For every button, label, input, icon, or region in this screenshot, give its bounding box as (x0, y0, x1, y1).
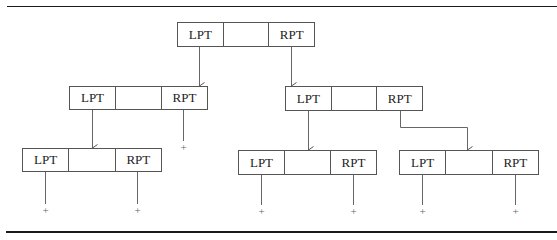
null-marker-icon: + (512, 206, 518, 217)
data-cell (115, 87, 161, 109)
left-pointer-cell: LPT (23, 149, 68, 171)
left-pointer-cell: LPT (400, 151, 445, 174)
edge-right-right (401, 110, 468, 150)
right-pointer-cell: RPT (161, 87, 207, 109)
right-pointer-cell: RPT (115, 149, 161, 171)
right-pointer-cell: RPT (492, 151, 538, 174)
right-pointer-cell: RPT (268, 23, 314, 46)
null-marker-icon: + (350, 206, 356, 217)
left-pointer-cell: LPT (239, 151, 284, 174)
left-pointer-cell: LPT (70, 87, 115, 109)
tree-node-right-child: LPT RPT (285, 86, 423, 111)
tree-node-right-right-child: LPT RPT (399, 150, 539, 175)
data-cell (331, 87, 377, 110)
data-cell (68, 149, 114, 171)
tree-node-left-child: LPT RPT (69, 86, 208, 110)
left-pointer-cell: LPT (286, 87, 331, 110)
left-pointer-cell: LPT (178, 23, 223, 46)
right-pointer-cell: RPT (330, 151, 376, 174)
null-marker-icon: + (134, 205, 140, 216)
null-marker-icon: + (180, 142, 186, 153)
data-cell (445, 151, 491, 174)
data-cell (284, 151, 330, 174)
data-cell (223, 23, 269, 46)
null-marker-icon: + (419, 206, 425, 217)
null-marker-icon: + (258, 206, 264, 217)
tree-node-root: LPT RPT (177, 22, 315, 47)
null-marker-icon: + (42, 205, 48, 216)
tree-node-left-left-child: LPT RPT (22, 148, 162, 172)
tree-node-right-left-child: LPT RPT (238, 150, 377, 175)
right-pointer-cell: RPT (376, 87, 422, 110)
